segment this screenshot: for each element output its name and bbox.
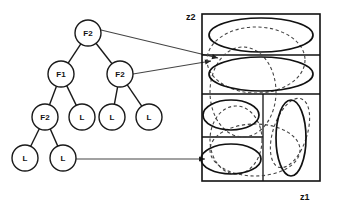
tree-node-l-n8[interactable]: L xyxy=(50,145,76,171)
tree-node-l-n6[interactable]: L xyxy=(136,104,162,130)
tree-node-f2-n3[interactable]: F2 xyxy=(32,104,58,130)
diagram-canvas: F2F1F2F2LLLLL z2 z1 xyxy=(0,0,338,210)
tree-node-l-n5[interactable]: L xyxy=(99,104,125,130)
node-label: L xyxy=(147,113,152,122)
node-label: L xyxy=(61,154,66,163)
node-label: F1 xyxy=(56,70,66,79)
node-label: F2 xyxy=(83,29,93,38)
overlay-lower-left xyxy=(210,106,262,174)
tree-edge-layer xyxy=(31,43,142,146)
mid-to-second-region-arrowhead xyxy=(205,59,211,64)
tree-edge xyxy=(96,43,112,64)
axis-label-z2: z2 xyxy=(186,12,196,22)
cluster-second xyxy=(209,57,313,91)
feature-space-panel xyxy=(201,14,320,181)
pointer-arrow-layer xyxy=(76,30,218,162)
tree-node-l-n4[interactable]: L xyxy=(69,104,95,130)
tree-edge xyxy=(50,129,58,146)
figure-root: F2F1F2F2LLLLL z2 z1 xyxy=(0,0,338,210)
cluster-lower-left-1 xyxy=(203,100,259,130)
node-label: L xyxy=(80,113,85,122)
axis-label-z1: z1 xyxy=(300,192,310,202)
tree-node-f1-n1[interactable]: F1 xyxy=(48,61,74,87)
cluster-lower-right xyxy=(276,100,306,176)
root-to-top-region xyxy=(101,30,218,58)
cluster-top xyxy=(209,18,313,52)
tree-node-l-n7[interactable]: L xyxy=(12,145,38,171)
node-label: F2 xyxy=(115,70,125,79)
tree-node-f2-n0[interactable]: F2 xyxy=(75,20,101,46)
tree-edge xyxy=(114,87,117,104)
node-label: L xyxy=(110,113,115,122)
dashed-ellipse-layer xyxy=(207,27,317,176)
tree-edge xyxy=(68,44,81,63)
tree-edge xyxy=(31,129,40,147)
node-label: F2 xyxy=(40,113,50,122)
cluster-lower-left-2 xyxy=(201,144,261,174)
tree-node-layer: F2F1F2F2LLLLL xyxy=(12,20,162,171)
tree-edge xyxy=(50,86,57,105)
tree-node-f2-n2[interactable]: F2 xyxy=(107,61,133,87)
tree-edge xyxy=(67,86,77,106)
tree-edge xyxy=(127,85,141,106)
mid-to-second-region xyxy=(133,61,211,74)
node-label: L xyxy=(23,154,28,163)
